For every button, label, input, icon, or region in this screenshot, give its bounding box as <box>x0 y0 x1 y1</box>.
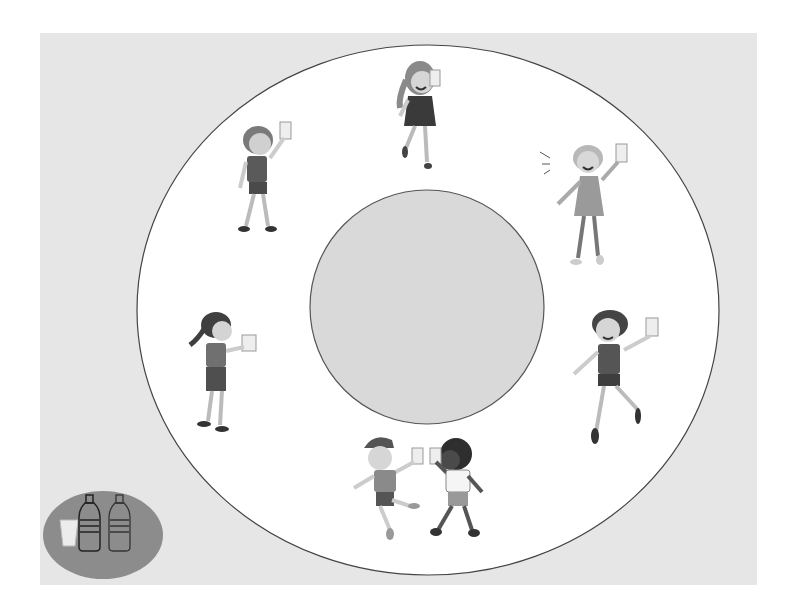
cup-icon <box>646 318 658 336</box>
cup-icon <box>280 122 291 139</box>
cup-icon <box>616 144 627 162</box>
cup-icon <box>430 70 440 86</box>
circle-scene <box>0 0 793 610</box>
cup-icon <box>60 520 78 546</box>
cup-icon <box>430 448 441 464</box>
water-tray[interactable] <box>43 491 163 579</box>
center-table[interactable] <box>310 190 544 424</box>
